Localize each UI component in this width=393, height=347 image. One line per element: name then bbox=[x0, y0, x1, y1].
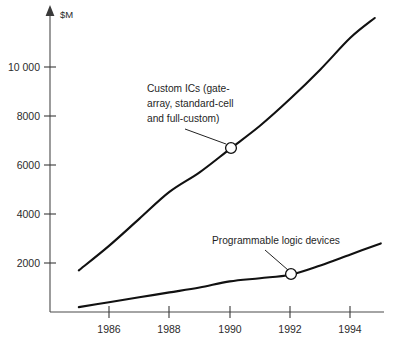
y-tick-group: 10 000 8000 6000 4000 2000 bbox=[8, 61, 56, 269]
y-tick-label: 8000 bbox=[17, 110, 41, 122]
y-tick-label: 6000 bbox=[17, 159, 41, 171]
line-chart: $M 10 000 8000 6000 4000 2000 1986 1988 … bbox=[0, 0, 393, 347]
y-axis-unit-label: $M bbox=[60, 9, 73, 20]
annotation-custom-ics: Custom ICs (gate- array, standard-cell a… bbox=[147, 83, 236, 153]
annotation-label-line-2: array, standard-cell bbox=[147, 98, 233, 109]
x-tick-label: 1994 bbox=[338, 323, 362, 335]
chart-container: $M 10 000 8000 6000 4000 2000 1986 1988 … bbox=[0, 0, 393, 347]
leader-line bbox=[185, 129, 226, 144]
annotation-label-line-1: Programmable logic devices bbox=[212, 235, 340, 246]
x-tick-label: 1988 bbox=[157, 323, 181, 335]
annotation-label-line-3: and full-custom) bbox=[147, 113, 219, 124]
data-point-marker-programmable-logic-devices bbox=[286, 269, 297, 280]
y-tick-label: 10 000 bbox=[8, 61, 40, 73]
data-point-marker-custom-ics bbox=[226, 143, 237, 154]
x-tick-label: 1990 bbox=[218, 323, 242, 335]
annotation-programmable-logic-devices: Programmable logic devices bbox=[212, 235, 340, 279]
x-tick-group: 1986 1988 1990 1992 1994 bbox=[97, 306, 362, 335]
x-tick-label: 1986 bbox=[97, 323, 121, 335]
annotation-label-line-1: Custom ICs (gate- bbox=[147, 83, 230, 94]
y-tick-label: 4000 bbox=[17, 208, 41, 220]
leader-line bbox=[265, 250, 288, 270]
y-axis-arrow-icon bbox=[46, 5, 55, 16]
y-tick-label: 2000 bbox=[17, 257, 41, 269]
y-axis bbox=[46, 5, 55, 312]
series-line-programmable-logic-devices bbox=[79, 243, 381, 307]
x-tick-label: 1992 bbox=[278, 323, 302, 335]
